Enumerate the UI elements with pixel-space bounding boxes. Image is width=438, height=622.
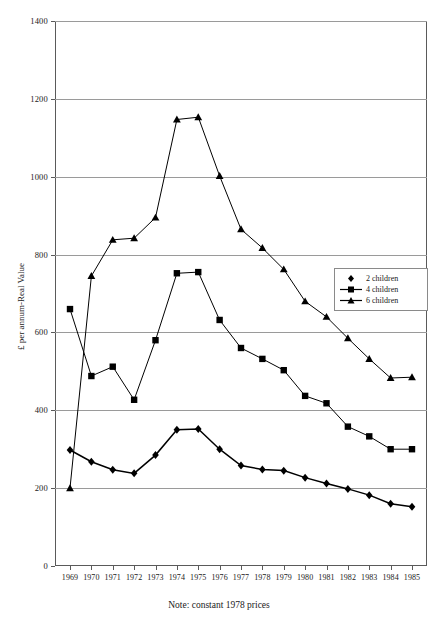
data-point: [194, 113, 202, 120]
chart-container: 0200400600800100012001400 19691970197119…: [0, 0, 438, 622]
data-point: [67, 306, 73, 312]
data-point: [216, 317, 222, 323]
legend-swatch-square-icon: [339, 284, 363, 295]
data-point: [301, 297, 309, 304]
data-point: [366, 433, 372, 439]
data-point: [345, 485, 352, 493]
chart-footnote: Note: constant 1978 prices: [0, 600, 438, 610]
data-point: [88, 458, 95, 466]
data-point: [409, 503, 416, 511]
data-point: [408, 373, 416, 380]
data-point: [280, 467, 287, 475]
legend-item-4-children: 4 children: [339, 284, 422, 295]
data-point: [88, 373, 94, 379]
data-point: [387, 500, 394, 508]
series-2-children: [67, 425, 416, 511]
data-point: [152, 337, 158, 343]
data-point: [67, 446, 74, 454]
legend-swatch-diamond-icon: [339, 273, 363, 284]
data-point: [323, 400, 329, 406]
data-point: [259, 356, 265, 362]
data-point: [366, 491, 373, 499]
data-point: [152, 214, 160, 221]
data-point: [387, 446, 393, 452]
legend-item-2-children: 2 children: [339, 273, 422, 284]
data-point: [195, 269, 201, 275]
data-series-layer: [0, 0, 438, 622]
legend-item-6-children: 6 children: [339, 295, 422, 306]
legend-label-4-children: 4 children: [363, 285, 398, 294]
data-point: [345, 423, 351, 429]
data-point: [110, 363, 116, 369]
data-point: [259, 465, 266, 473]
data-point: [66, 484, 74, 491]
data-point: [174, 270, 180, 276]
data-point: [131, 397, 137, 403]
data-point: [216, 172, 224, 179]
data-point: [281, 367, 287, 373]
legend-swatch-triangle-icon: [339, 295, 363, 306]
data-point: [323, 479, 330, 487]
data-point: [409, 446, 415, 452]
legend-label-2-children: 2 children: [363, 274, 398, 283]
data-point: [87, 272, 95, 279]
data-point: [237, 225, 245, 232]
data-point: [302, 393, 308, 399]
data-point: [109, 466, 116, 474]
data-point: [238, 462, 245, 470]
legend-label-6-children: 6 children: [363, 296, 398, 305]
data-point: [323, 313, 331, 320]
chart-legend: 2 children 4 children 6 children: [334, 268, 428, 311]
data-point: [238, 345, 244, 351]
data-point: [302, 474, 309, 482]
